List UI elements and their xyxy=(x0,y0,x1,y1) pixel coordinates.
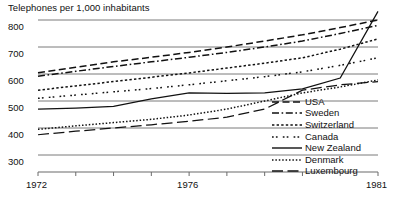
legend-swatch-dash-dot-icon xyxy=(272,108,302,118)
legend-item-switzerland[interactable]: Switzerland xyxy=(272,119,396,131)
legend-label: Sweden xyxy=(305,108,339,118)
series-line-new-zealand xyxy=(38,11,378,109)
legend-swatch-long-dash-icon xyxy=(272,166,302,176)
legend-swatch-dotted-icon xyxy=(272,120,302,130)
legend-item-denmark[interactable]: Denmark xyxy=(272,154,396,166)
legend-swatch-solid-icon xyxy=(272,143,302,153)
legend-label: New Zealand xyxy=(305,143,361,153)
legend-label: Denmark xyxy=(305,155,344,165)
legend-item-canada[interactable]: Canada xyxy=(272,131,396,143)
legend-swatch-fine-dotted-icon xyxy=(272,155,302,165)
chart-container: Telephones per 1,000 inhabitants 8007006… xyxy=(0,0,398,210)
legend-label: Canada xyxy=(305,132,338,142)
legend-item-new-zealand[interactable]: New Zealand xyxy=(272,142,396,154)
legend-label: Luxembourg xyxy=(305,166,358,176)
legend-label: Switzerland xyxy=(305,120,354,130)
legend-item-luxembourg[interactable]: Luxembourg xyxy=(272,166,396,178)
series-line-canada xyxy=(38,58,378,99)
series-line-sweden xyxy=(38,25,378,76)
chart-legend: USASwedenSwitzerlandCanadaNew ZealandDen… xyxy=(272,96,396,177)
legend-label: USA xyxy=(305,97,325,107)
series-line-usa xyxy=(38,20,378,73)
legend-swatch-dashed-icon xyxy=(272,97,302,107)
legend-item-usa[interactable]: USA xyxy=(272,96,396,108)
legend-item-sweden[interactable]: Sweden xyxy=(272,108,396,120)
legend-swatch-dot-dot-icon xyxy=(272,132,302,142)
